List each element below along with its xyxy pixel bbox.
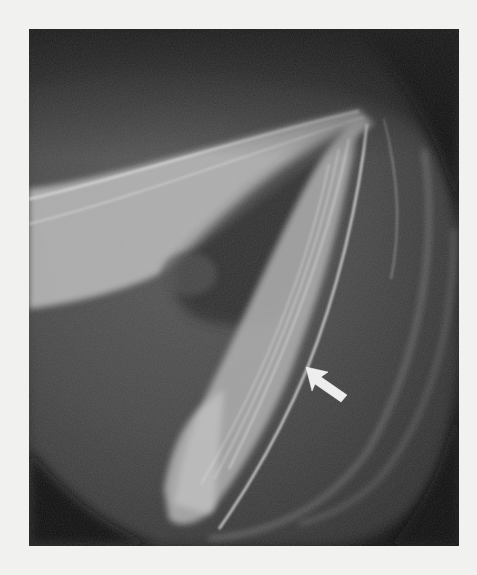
- film-grain: [29, 29, 459, 546]
- radiograph-graphic: [29, 29, 459, 546]
- radiograph-image: [29, 29, 459, 546]
